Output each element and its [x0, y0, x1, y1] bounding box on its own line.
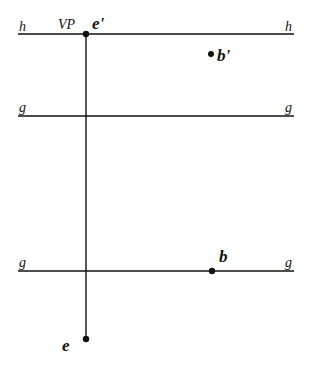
- point-b-prime: [208, 51, 214, 57]
- ground-lower-label-right: g: [285, 255, 292, 270]
- point-e: [83, 336, 89, 342]
- label-e-prime: e': [92, 14, 105, 33]
- point-e-prime: [83, 31, 89, 37]
- diagram-canvas: h h VP g g g g e' b' b e: [0, 0, 314, 367]
- label-e: e: [62, 336, 70, 355]
- point-b: [209, 268, 215, 274]
- label-b-prime: b': [217, 46, 231, 65]
- ground-upper-label-left: g: [19, 100, 26, 115]
- horizon-label-left: h: [19, 19, 26, 34]
- perspective-diagram: h h VP g g g g e' b' b e: [0, 0, 314, 367]
- ground-upper-label-right: g: [285, 100, 292, 115]
- horizon-label-right: h: [285, 19, 292, 34]
- ground-lower-label-left: g: [19, 255, 26, 270]
- vp-label: VP: [58, 17, 76, 32]
- label-b: b: [219, 247, 228, 266]
